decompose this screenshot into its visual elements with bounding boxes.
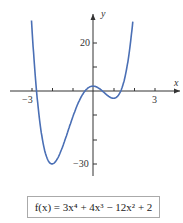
function-plot: [0, 0, 183, 223]
tick-label-neg3: −3: [22, 94, 33, 105]
y-axis-arrow-icon: [91, 14, 96, 20]
function-formula: f(x) = 3x⁴ + 4x³ − 12x² + 2: [27, 196, 160, 218]
tick-label-neg30: −30: [73, 158, 89, 169]
formula-text: f(x) = 3x⁴ + 4x³ − 12x² + 2: [35, 201, 153, 213]
tick-label-3: 3: [152, 94, 157, 105]
y-ticks: [93, 43, 97, 164]
x-axis-arrow-icon: [174, 89, 180, 94]
tick-label-20: 20: [80, 37, 90, 48]
x-axis-label: x: [174, 77, 178, 88]
y-axis-label: y: [101, 8, 105, 19]
